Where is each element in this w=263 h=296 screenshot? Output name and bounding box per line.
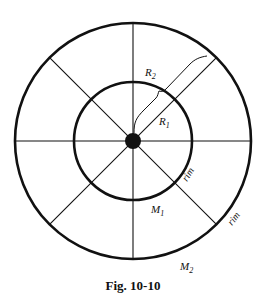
label-m1: M1 xyxy=(150,203,164,218)
label-r1: R1 xyxy=(158,115,170,130)
label-m2: M2 xyxy=(179,260,193,275)
hub xyxy=(125,133,141,149)
label-r2: R2 xyxy=(144,66,156,81)
figure-caption: Fig. 10-10 xyxy=(106,278,161,293)
wheel-diagram: R2 R1 M1 M2 rim rim Fig. 10-10 xyxy=(0,0,263,296)
label-rim-inner: rim xyxy=(179,165,196,183)
